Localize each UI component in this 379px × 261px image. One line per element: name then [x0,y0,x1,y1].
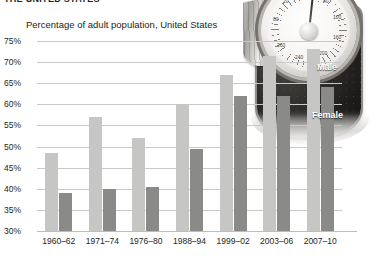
legend-label-male: Male [317,62,337,72]
bar-series-layer [37,41,342,231]
y-axis-tick-label: 50% [4,142,21,152]
scale-dial-hub [300,22,318,40]
figure-subtitle: Percentage of adult population, United S… [26,19,217,30]
bar-male-1960-62 [45,153,58,231]
axis-baseline [37,231,357,232]
scale-dial-number: 40 [323,0,329,4]
bar-female-1988-94 [190,149,203,231]
x-axis-tick-label: 2003–06 [260,236,293,246]
bar-female-2007-10 [321,87,334,231]
bar-male-2003-06 [263,56,276,231]
bar-male-1971-74 [89,117,102,231]
bar-male-1976-80 [132,138,145,231]
bar-female-1960-62 [59,193,72,231]
chart-figure: THE UNITED STATES Percentage of adult po… [0,0,379,261]
bar-male-1999-02 [220,75,233,231]
x-axis-tick-label: 1960–62 [42,236,75,246]
y-axis-tick-label: 30% [4,226,21,236]
x-axis-tick-label: 2007–10 [304,236,337,246]
y-axis-tick-label: 70% [4,57,21,67]
y-axis-tick-label: 60% [4,99,21,109]
bar-male-2007-10 [307,49,320,231]
legend-label-female: Female [312,110,343,120]
scale-dial-number: 80 [273,16,279,22]
y-axis-tick-label: 40% [4,184,21,194]
y-axis-tick-label: 75% [4,36,21,46]
bar-female-1976-80 [146,187,159,231]
bar-female-1971-74 [103,189,116,231]
y-axis-tick-label: 45% [4,163,21,173]
y-axis-tick-label: 35% [4,205,21,215]
x-axis-tick-label: 1999–02 [217,236,250,246]
y-axis-tick-label: 65% [4,78,21,88]
bar-female-2003-06 [277,96,290,231]
bar-male-1988-94 [176,104,189,231]
scale-dial-number: 20 [283,0,289,4]
x-axis-tick-label: 1988–94 [173,236,206,246]
y-axis-tick-label: 55% [4,120,21,130]
x-axis-tick-label: 1976–80 [129,236,162,246]
figure-headline: THE UNITED STATES [4,0,100,4]
scale-dial-number: 160 [333,34,341,40]
bar-female-1999-02 [234,96,247,231]
scale-dial-number: 100 [333,14,341,20]
x-axis-tick-label: 1971–74 [86,236,119,246]
